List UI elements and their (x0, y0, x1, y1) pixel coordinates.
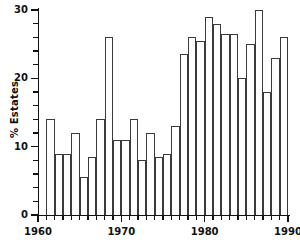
x-tick (212, 215, 213, 220)
x-tick (162, 215, 163, 220)
x-tick (46, 215, 47, 220)
x-tick (171, 215, 172, 220)
bar (46, 119, 54, 215)
bar (205, 17, 213, 215)
x-tick (62, 215, 63, 220)
bar (113, 140, 121, 215)
bar (213, 24, 221, 215)
bar (88, 157, 96, 215)
x-tick (96, 215, 97, 220)
y-tick-label: 30 (4, 5, 28, 15)
bar (238, 78, 246, 215)
bar (271, 58, 279, 215)
bar (171, 126, 179, 215)
bar (180, 54, 188, 215)
bar (121, 140, 129, 215)
y-tick (31, 78, 38, 79)
bar (138, 160, 146, 215)
bar (96, 119, 104, 215)
x-tick (262, 215, 263, 220)
y-tick (31, 146, 38, 147)
bar (80, 177, 88, 215)
x-tick (129, 215, 130, 220)
x-tick (187, 215, 188, 220)
bar (221, 34, 229, 215)
y-tick-label: 0 (4, 210, 28, 220)
bar (230, 34, 238, 215)
bar (263, 92, 271, 215)
y-tick-label: 20 (4, 73, 28, 83)
bar (246, 44, 254, 215)
x-tick (196, 215, 197, 220)
x-tick (179, 215, 180, 220)
bar (188, 37, 196, 215)
x-tick (112, 215, 113, 220)
x-tick (154, 215, 155, 220)
x-tick (204, 215, 205, 222)
bar (196, 41, 204, 215)
x-tick (287, 215, 288, 222)
x-tick-label: 1960 (24, 226, 52, 237)
x-tick (79, 215, 80, 220)
bar (105, 37, 113, 215)
bar (130, 119, 138, 215)
x-tick-label: 1980 (191, 226, 219, 237)
y-tick-label: 10 (4, 142, 28, 152)
x-tick (37, 215, 38, 222)
x-tick (246, 215, 247, 220)
x-tick (121, 215, 122, 222)
bar (146, 133, 154, 215)
x-tick (279, 215, 280, 220)
x-tick (87, 215, 88, 220)
x-tick-label: 1970 (107, 226, 135, 237)
x-tick (146, 215, 147, 220)
bar (71, 133, 79, 215)
bar (155, 157, 163, 215)
x-tick (221, 215, 222, 220)
x-tick (71, 215, 72, 220)
x-tick (254, 215, 255, 220)
chart-container: % Estates 0102030 1960197019801990 (0, 0, 300, 252)
x-tick (237, 215, 238, 220)
x-tick (137, 215, 138, 220)
bar (55, 154, 63, 216)
bar-series (38, 10, 288, 215)
x-tick-label: 1990 (274, 226, 300, 237)
x-tick (54, 215, 55, 220)
x-tick (104, 215, 105, 220)
y-tick (31, 9, 38, 10)
x-tick (271, 215, 272, 220)
x-tick (229, 215, 230, 220)
bar (280, 37, 288, 215)
bar (63, 154, 71, 216)
bar (163, 154, 171, 216)
bar (255, 10, 263, 215)
